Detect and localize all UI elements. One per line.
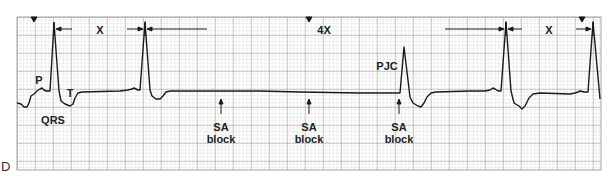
ecg-strip: X 4X X P T QRS PJC SA block SA block SA … <box>0 0 609 176</box>
pjc-label: PJC <box>376 60 397 72</box>
sa-block-label-3: SA <box>391 121 406 133</box>
sa-block-label-1: SA <box>213 121 228 133</box>
interval-x-label: X <box>96 24 104 36</box>
qrs-label: QRS <box>41 114 65 126</box>
interval-4x-label: 4X <box>317 24 331 36</box>
sa-block-label-2b: block <box>295 133 325 145</box>
t-wave-label: T <box>67 87 74 99</box>
panel-label: D <box>1 159 10 174</box>
sa-block-label-3b: block <box>385 133 415 145</box>
sa-block-label-1b: block <box>207 133 237 145</box>
ecg-grid <box>17 17 601 170</box>
interval-x-label-2: X <box>545 24 553 36</box>
p-wave-label: P <box>35 74 42 86</box>
sa-block-label-2: SA <box>301 121 316 133</box>
